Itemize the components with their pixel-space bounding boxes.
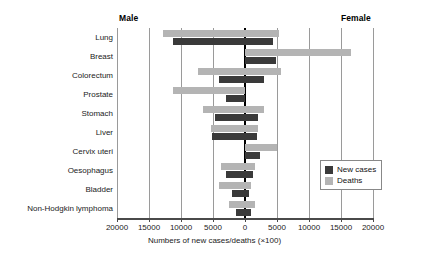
x-tick [373,218,374,222]
x-tick-label: 15000 [138,223,160,232]
category-label: Colorectum [1,71,113,80]
legend-item-deaths: Deaths [325,175,376,186]
bar-deaths [211,125,258,132]
x-tick-label: 20000 [106,223,128,232]
category-label: Non-Hodgkin lymphoma [1,204,113,213]
bar-deaths [245,144,277,151]
bar-group-row [117,104,373,123]
bar-group-row [117,28,373,47]
legend-swatch-new-cases [325,166,333,174]
cancer-incidence-mortality-chart: Male Female LungBreastColorectumProstate… [0,0,429,262]
legend-label-deaths: Deaths [337,176,362,185]
category-label: Breast [1,52,113,61]
bar-new-cases [232,190,249,197]
bar-new-cases [215,114,258,121]
bar-new-cases [245,57,276,64]
x-tick-label: 10000 [170,223,192,232]
x-tick [181,218,182,222]
bar-deaths [219,182,251,189]
bar-group-row [117,47,373,66]
x-tick [149,218,150,222]
category-label: Oesophagus [1,166,113,175]
x-tick-label: 5000 [204,223,222,232]
legend-label-new-cases: New cases [337,165,376,174]
category-label: Lung [1,33,113,42]
bar-new-cases [173,38,273,45]
chart-legend: New cases Deaths [320,160,382,190]
bar-group-row [117,85,373,104]
bar-group-row [117,199,373,218]
x-tick-label: 20000 [362,223,384,232]
bar-deaths [245,49,351,56]
x-tick-label: 5000 [268,223,286,232]
bar-deaths [221,163,254,170]
x-tick [341,218,342,222]
bar-new-cases [212,133,257,140]
x-axis-title: Numbers of new cases/deaths (×100) [0,236,429,245]
x-tick [309,218,310,222]
bar-group-row [117,123,373,142]
x-tick [213,218,214,222]
x-tick-label: 0 [243,223,247,232]
female-group-label: Female [341,13,371,23]
legend-item-new-cases: New cases [325,164,376,175]
category-label: Bladder [1,185,113,194]
category-label: Prostate [1,90,113,99]
x-tick [245,218,246,222]
bar-group-row [117,142,373,161]
bar-new-cases [236,209,251,216]
x-tick-label: 15000 [330,223,352,232]
bar-new-cases [226,95,245,102]
x-tick-label: 10000 [298,223,320,232]
bar-deaths [229,201,255,208]
bar-new-cases [245,152,260,159]
category-label: Liver [1,128,113,137]
bar-deaths [203,106,263,113]
legend-swatch-deaths [325,177,333,185]
category-label: Cervix uteri [1,147,113,156]
x-tick [117,218,118,222]
category-axis-labels: LungBreastColorectumProstateStomachLiver… [0,28,113,218]
bar-deaths [198,68,282,75]
bar-new-cases [226,171,253,178]
bar-group-row [117,66,373,85]
bar-deaths [163,30,279,37]
x-tick [277,218,278,222]
bar-deaths [173,87,245,94]
category-label: Stomach [1,109,113,118]
male-group-label: Male [119,13,138,23]
bar-new-cases [219,76,264,83]
